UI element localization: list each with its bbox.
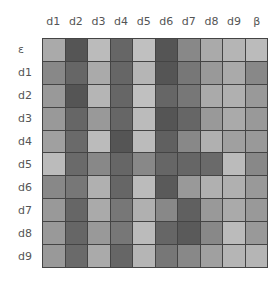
heatmap-cell [133,62,155,84]
heatmap-cell [246,176,268,198]
heatmap-cell [178,131,200,153]
heatmap-cell [201,245,223,267]
heatmap-cell [133,176,155,198]
heatmap-cell [43,108,65,130]
heatmap-cell [201,62,223,84]
heatmap-cell [133,131,155,153]
column-label: d8 [200,13,223,31]
heatmap-cell [88,39,110,61]
row-label: d5 [0,153,42,176]
heatmap-cell [43,131,65,153]
heatmap-cell [178,176,200,198]
heatmap-cell [223,222,245,244]
heatmap-cell [246,62,268,84]
row-label: d8 [0,222,42,245]
row-labels: εd1d2d3d4d5d6d7d8d9 [0,38,42,268]
heatmap-cell [88,62,110,84]
heatmap-cell [156,153,178,175]
heatmap-cell [156,245,178,267]
heatmap-cell [43,85,65,107]
heatmap-cell [88,131,110,153]
heatmap-cell [111,176,133,198]
heatmap-cell [201,39,223,61]
heatmap-cell [178,222,200,244]
heatmap-cell [178,62,200,84]
heatmap-cell [88,199,110,221]
heatmap-cell [201,85,223,107]
heatmap-cell [111,62,133,84]
heatmap-cell [88,222,110,244]
heatmap-cell [246,222,268,244]
heatmap-cell [178,153,200,175]
column-label: β [245,13,268,31]
heatmap-cell [111,39,133,61]
heatmap-cell [66,199,88,221]
heatmap-cell [66,39,88,61]
heatmap-cell [156,108,178,130]
heatmap-cell [66,108,88,130]
heatmap-cell [66,85,88,107]
row-label: d6 [0,176,42,199]
heatmap-cell [88,85,110,107]
row-label: d9 [0,245,42,268]
heatmap-cell [246,39,268,61]
heatmap-cell [43,62,65,84]
heatmap-cell [223,131,245,153]
row-label: d2 [0,84,42,107]
heatmap-cell [246,131,268,153]
heatmap-cell [43,199,65,221]
heatmap-cell [111,131,133,153]
heatmap-cell [133,85,155,107]
heatmap-cell [133,199,155,221]
heatmap-cell [133,39,155,61]
heatmap-cell [246,245,268,267]
heatmap-cell [66,245,88,267]
heatmap-cell [246,108,268,130]
heatmap-cell [66,222,88,244]
heatmap-cell [201,199,223,221]
heatmap-cell [88,153,110,175]
heatmap-cell [43,153,65,175]
heatmap-cell [66,131,88,153]
heatmap-cell [156,39,178,61]
heatmap-cell [246,199,268,221]
heatmap-cell [223,39,245,61]
column-label: d4 [110,13,133,31]
heatmap-cell [88,176,110,198]
heatmap-cell [178,85,200,107]
heatmap-cell [133,108,155,130]
heatmap-cell [88,245,110,267]
column-label: d5 [132,13,155,31]
column-label: d9 [223,13,246,31]
heatmap-cell [201,131,223,153]
heatmap-cell [133,153,155,175]
heatmap-cell [111,222,133,244]
heatmap-cell [201,153,223,175]
heatmap-cell [201,176,223,198]
heatmap-cell [133,222,155,244]
heatmap-cell [223,62,245,84]
heatmap-cell [66,176,88,198]
heatmap-cell [223,85,245,107]
heatmap-cell [111,245,133,267]
heatmap-cell [246,85,268,107]
heatmap-cell [43,245,65,267]
heatmap-cell [43,222,65,244]
row-label: d1 [0,61,42,84]
heatmap-cell [111,153,133,175]
heatmap-cell [156,131,178,153]
row-label: d4 [0,130,42,153]
row-label: d3 [0,107,42,130]
heatmap-cell [156,85,178,107]
column-label: d6 [155,13,178,31]
column-label: d3 [87,13,110,31]
heatmap-cell [156,62,178,84]
column-label: d2 [65,13,88,31]
heatmap-cell [178,108,200,130]
heatmap-cell [156,222,178,244]
heatmap-cell [43,39,65,61]
column-label: d7 [178,13,201,31]
column-labels: d1d2d3d4d5d6d7d8d9β [42,13,268,31]
heatmap-cell [88,108,110,130]
heatmap-cell [43,176,65,198]
